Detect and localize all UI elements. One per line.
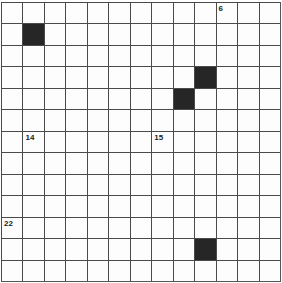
grid-cell[interactable] [237, 217, 258, 238]
grid-cell[interactable] [216, 131, 237, 152]
grid-cell[interactable] [44, 88, 65, 109]
grid-cell[interactable] [130, 131, 151, 152]
grid-cell[interactable] [44, 45, 65, 66]
grid-cell[interactable] [173, 260, 194, 281]
grid-cell[interactable] [237, 23, 258, 44]
grid-cell[interactable] [130, 217, 151, 238]
grid-cell[interactable] [44, 131, 65, 152]
grid-cell[interactable] [44, 66, 65, 87]
grid-cell[interactable] [22, 45, 43, 66]
grid-cell[interactable]: 22 [1, 217, 22, 238]
grid-cell[interactable] [44, 23, 65, 44]
grid-cell[interactable] [237, 66, 258, 87]
grid-cell[interactable] [151, 217, 172, 238]
grid-cell[interactable] [237, 152, 258, 173]
grid-cell[interactable] [259, 109, 280, 130]
grid-cell[interactable] [65, 238, 86, 259]
grid-cell[interactable] [22, 152, 43, 173]
grid-cell[interactable] [108, 45, 129, 66]
grid-cell[interactable] [22, 238, 43, 259]
grid-cell[interactable] [1, 109, 22, 130]
grid-cell[interactable] [130, 174, 151, 195]
grid-cell[interactable] [87, 66, 108, 87]
grid-cell[interactable] [259, 131, 280, 152]
grid-cell[interactable] [22, 88, 43, 109]
grid-cell[interactable] [130, 109, 151, 130]
grid-cell[interactable] [237, 195, 258, 216]
grid-cell[interactable] [237, 109, 258, 130]
grid-cell[interactable] [65, 109, 86, 130]
grid-cell[interactable] [65, 2, 86, 23]
grid-cell[interactable] [87, 174, 108, 195]
grid-cell[interactable] [1, 66, 22, 87]
grid-cell[interactable] [108, 131, 129, 152]
grid-cell[interactable] [130, 238, 151, 259]
grid-cell[interactable] [194, 131, 215, 152]
grid-cell[interactable] [194, 45, 215, 66]
grid-cell[interactable] [216, 23, 237, 44]
grid-cell[interactable] [108, 66, 129, 87]
grid-cell[interactable] [65, 131, 86, 152]
grid-cell[interactable] [173, 2, 194, 23]
grid-cell[interactable] [1, 88, 22, 109]
grid-cell[interactable] [151, 45, 172, 66]
grid-cell[interactable] [108, 260, 129, 281]
grid-cell[interactable] [259, 66, 280, 87]
grid-cell[interactable] [65, 45, 86, 66]
grid-cell[interactable] [173, 152, 194, 173]
grid-cell[interactable] [259, 88, 280, 109]
grid-cell[interactable] [130, 66, 151, 87]
grid-cell[interactable] [173, 45, 194, 66]
grid-cell[interactable] [44, 174, 65, 195]
grid-cell[interactable] [108, 238, 129, 259]
grid-cell[interactable] [65, 88, 86, 109]
grid-cell[interactable] [216, 152, 237, 173]
grid-cell[interactable] [22, 217, 43, 238]
grid-cell[interactable] [108, 174, 129, 195]
grid-cell[interactable] [259, 23, 280, 44]
grid-cell[interactable] [173, 66, 194, 87]
grid-cell[interactable] [173, 174, 194, 195]
grid-cell[interactable] [259, 260, 280, 281]
grid-cell[interactable] [194, 23, 215, 44]
grid-cell[interactable]: 6 [216, 2, 237, 23]
grid-cell[interactable] [108, 88, 129, 109]
grid-cell[interactable] [44, 152, 65, 173]
grid-cell[interactable] [194, 260, 215, 281]
grid-cell[interactable] [237, 45, 258, 66]
grid-cell[interactable] [87, 238, 108, 259]
grid-cell[interactable] [173, 238, 194, 259]
grid-cell[interactable] [108, 2, 129, 23]
grid-cell[interactable] [87, 260, 108, 281]
grid-cell[interactable] [87, 217, 108, 238]
grid-cell[interactable] [108, 152, 129, 173]
grid-cell[interactable] [216, 174, 237, 195]
grid-cell[interactable] [151, 109, 172, 130]
grid-cell[interactable] [216, 88, 237, 109]
grid-cell[interactable] [87, 152, 108, 173]
grid-cell[interactable] [87, 2, 108, 23]
grid-cell[interactable] [259, 152, 280, 173]
grid-cell[interactable] [1, 174, 22, 195]
grid-cell[interactable] [87, 45, 108, 66]
grid-cell[interactable] [130, 260, 151, 281]
grid-cell[interactable] [65, 217, 86, 238]
grid-cell[interactable] [22, 174, 43, 195]
grid-cell[interactable] [130, 88, 151, 109]
grid-cell[interactable] [151, 195, 172, 216]
grid-cell[interactable] [44, 217, 65, 238]
grid-cell[interactable] [130, 23, 151, 44]
grid-cell[interactable] [173, 109, 194, 130]
grid-cell[interactable] [194, 88, 215, 109]
grid-cell[interactable] [216, 45, 237, 66]
grid-cell[interactable] [216, 217, 237, 238]
grid-cell[interactable] [216, 260, 237, 281]
grid-cell[interactable] [1, 45, 22, 66]
grid-cell[interactable]: 14 [22, 131, 43, 152]
grid-cell[interactable] [44, 260, 65, 281]
grid-cell[interactable] [194, 2, 215, 23]
grid-cell[interactable] [151, 238, 172, 259]
grid-cell[interactable] [87, 88, 108, 109]
grid-cell[interactable] [194, 174, 215, 195]
grid-cell[interactable] [22, 109, 43, 130]
